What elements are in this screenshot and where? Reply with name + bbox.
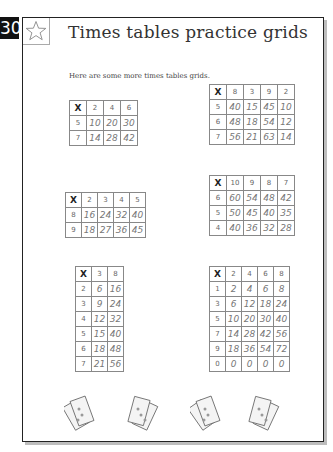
row-header: 6 <box>210 191 227 206</box>
grid-cell: 50 <box>227 206 244 221</box>
grid-cell: 32 <box>261 221 278 236</box>
row-header: 7 <box>210 327 226 342</box>
grid-cell: 40 <box>108 327 124 342</box>
grid-cell: 14 <box>226 327 242 342</box>
money-notes-icon <box>190 392 224 434</box>
grid-cell: 10 <box>226 312 242 327</box>
times-grid-1: X 2 4 6 5 10 20 30 7 14 28 42 <box>69 100 138 146</box>
row-header: 3 <box>76 297 92 312</box>
page-number: 30 <box>0 17 19 39</box>
grid-cell: 30 <box>258 312 274 327</box>
grid-cell: 56 <box>108 357 124 372</box>
grid-cell: 0 <box>274 357 290 372</box>
column-header: 4 <box>242 267 258 282</box>
grid-cell: 36 <box>242 342 258 357</box>
grid-cell: 18 <box>244 115 261 130</box>
grid-cell: 30 <box>121 116 138 131</box>
row-header: 5 <box>70 116 87 131</box>
column-header: 8 <box>274 267 290 282</box>
column-header: 8 <box>108 267 124 282</box>
grid-cell: 12 <box>278 115 295 130</box>
grid-cell: 56 <box>227 130 244 145</box>
grid-cell: 40 <box>274 312 290 327</box>
times-grid-3: X 2 3 4 5 8 16 24 32 40 9 18 27 36 45 <box>65 192 146 238</box>
grid-cell: 20 <box>104 116 121 131</box>
times-grid-2: X 8 3 9 2 5 40 15 45 10 6 48 18 54 12 7 … <box>209 84 295 145</box>
grid-cell: 54 <box>258 342 274 357</box>
grid-cell: 72 <box>274 342 290 357</box>
column-header: 3 <box>98 193 114 208</box>
column-header: 9 <box>244 176 261 191</box>
column-header: 2 <box>87 101 104 116</box>
grid-cell: 60 <box>227 191 244 206</box>
column-header: 4 <box>114 193 130 208</box>
row-header: 9 <box>210 342 226 357</box>
grid-cell: 14 <box>87 131 104 146</box>
column-header: 10 <box>227 176 244 191</box>
grid-cell: 21 <box>92 357 108 372</box>
column-header: 9 <box>261 85 278 100</box>
times-grid-6: X 2 4 6 8 1 2 4 6 8 3 6 12 18 24 5 10 20… <box>209 266 290 372</box>
column-header: 6 <box>258 267 274 282</box>
grid-cell: 40 <box>261 206 278 221</box>
grid-cell: 20 <box>242 312 258 327</box>
column-header: 3 <box>92 267 108 282</box>
times-grid-4: X 10 9 8 7 6 60 54 48 42 5 50 45 40 35 4… <box>209 175 295 236</box>
money-notes-icon <box>125 392 159 434</box>
row-header: 3 <box>210 297 226 312</box>
grid-cell: 0 <box>226 357 242 372</box>
grid-corner: X <box>210 267 226 282</box>
row-header: 6 <box>210 115 227 130</box>
grid-cell: 45 <box>261 100 278 115</box>
grid-cell: 16 <box>82 208 98 223</box>
times-grid-5: X 3 8 2 6 16 3 9 24 4 12 32 5 15 40 6 18… <box>75 266 124 372</box>
row-header: 4 <box>76 312 92 327</box>
row-header: 5 <box>210 100 227 115</box>
column-header: 8 <box>261 176 278 191</box>
column-header: 6 <box>121 101 138 116</box>
grid-cell: 15 <box>244 100 261 115</box>
column-header: 2 <box>226 267 242 282</box>
grid-cell: 24 <box>98 208 114 223</box>
grid-cell: 35 <box>278 206 295 221</box>
money-notes-icon <box>246 392 280 434</box>
grid-corner: X <box>76 267 92 282</box>
grid-cell: 18 <box>226 342 242 357</box>
grid-cell: 14 <box>278 130 295 145</box>
grid-cell: 63 <box>261 130 278 145</box>
column-header: 2 <box>278 85 295 100</box>
grid-cell: 6 <box>258 282 274 297</box>
column-header: 2 <box>82 193 98 208</box>
grid-corner: X <box>210 85 227 100</box>
row-header: 7 <box>70 131 87 146</box>
column-header: 5 <box>130 193 146 208</box>
grid-cell: 32 <box>114 208 130 223</box>
grid-cell: 28 <box>242 327 258 342</box>
grid-cell: 2 <box>226 282 242 297</box>
row-header: 8 <box>66 208 82 223</box>
grid-cell: 10 <box>87 116 104 131</box>
grid-cell: 27 <box>98 223 114 238</box>
grid-corner: X <box>66 193 82 208</box>
grid-cell: 36 <box>244 221 261 236</box>
grid-cell: 45 <box>244 206 261 221</box>
row-header: 1 <box>210 282 226 297</box>
grid-corner: X <box>70 101 87 116</box>
column-header: 7 <box>278 176 295 191</box>
star-icon <box>25 20 47 42</box>
grid-cell: 12 <box>92 312 108 327</box>
grid-cell: 40 <box>130 208 146 223</box>
grid-cell: 18 <box>92 342 108 357</box>
grid-cell: 54 <box>244 191 261 206</box>
column-header: 8 <box>227 85 244 100</box>
grid-cell: 45 <box>130 223 146 238</box>
column-header: 3 <box>244 85 261 100</box>
grid-cell: 48 <box>108 342 124 357</box>
grid-cell: 15 <box>92 327 108 342</box>
row-header: 7 <box>76 357 92 372</box>
grid-cell: 6 <box>226 297 242 312</box>
grid-corner: X <box>210 176 227 191</box>
row-header: 0 <box>210 357 226 372</box>
intro-text: Here are some more times tables grids. <box>69 72 210 80</box>
star-badge <box>23 18 50 45</box>
